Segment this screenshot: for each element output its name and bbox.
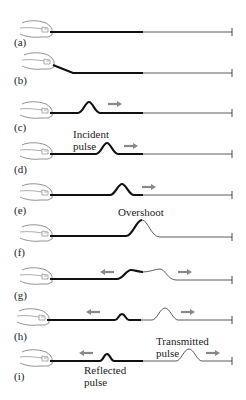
reflected-label-2: pulse xyxy=(84,376,107,388)
panel-label: (i) xyxy=(14,370,25,383)
hand-icon xyxy=(20,102,52,119)
panel-label: (d) xyxy=(14,163,27,176)
panel-label: (f) xyxy=(14,246,25,259)
overshoot-label: Overshoot xyxy=(118,206,164,218)
hand-icon xyxy=(20,143,52,160)
thick-rope-with-pulse xyxy=(50,270,143,279)
incident-label: Incident xyxy=(73,128,109,140)
incident-label-2: pulse xyxy=(73,140,96,152)
hand-icon xyxy=(22,53,54,70)
hand-icon xyxy=(20,268,52,285)
hand-icon xyxy=(17,309,49,326)
panel-label: (g) xyxy=(14,289,27,302)
thick-rope-with-pulse xyxy=(50,220,142,236)
hand-icon xyxy=(20,184,52,201)
panel-d: Incident pulse (d) xyxy=(14,128,232,176)
reflected-label: Reflected xyxy=(84,364,127,376)
wave-pulse-diagram: (a) (b) (c) Incident pulse (d) (e) xyxy=(0,0,246,400)
transmitted-label: Transmitted xyxy=(156,335,209,347)
thick-rope-with-pulse xyxy=(50,143,143,154)
arrow-right-icon xyxy=(178,269,192,275)
panel-label: (e) xyxy=(14,204,27,217)
arrow-right-icon xyxy=(124,143,138,149)
arrow-right-icon xyxy=(206,350,220,356)
panel-label: (a) xyxy=(14,36,27,49)
panel-label: (h) xyxy=(14,330,27,343)
panel-f: Overshoot (f) xyxy=(14,206,232,259)
panel-b: (b) xyxy=(14,53,232,87)
thick-rope xyxy=(53,65,143,73)
hand-icon xyxy=(20,350,52,367)
thin-rope-with-pulse xyxy=(141,308,232,320)
panel-c: (c) xyxy=(14,101,232,134)
thick-rope-with-pulse xyxy=(50,102,143,113)
thick-rope-with-pulse xyxy=(47,314,141,320)
panel-a: (a) xyxy=(14,21,232,49)
hand-icon xyxy=(20,21,52,38)
transmitted-label-2: pulse xyxy=(156,347,179,359)
panel-i: Transmitted pulse (i) Reflected pulse xyxy=(14,335,232,388)
hand-icon xyxy=(20,225,52,242)
thin-rope xyxy=(142,220,232,237)
arrow-right-icon xyxy=(181,309,195,315)
arrow-right-icon xyxy=(142,184,156,190)
arrow-right-icon xyxy=(108,101,122,107)
panel-label: (c) xyxy=(14,121,27,134)
arrow-left-icon xyxy=(100,269,114,275)
thick-rope-with-pulse xyxy=(50,184,143,195)
arrow-left-icon xyxy=(86,309,100,315)
arrow-left-icon xyxy=(79,350,93,356)
thick-rope-with-pulse xyxy=(50,354,143,361)
panel-g: (g) xyxy=(14,268,232,302)
panel-label: (b) xyxy=(14,74,27,87)
